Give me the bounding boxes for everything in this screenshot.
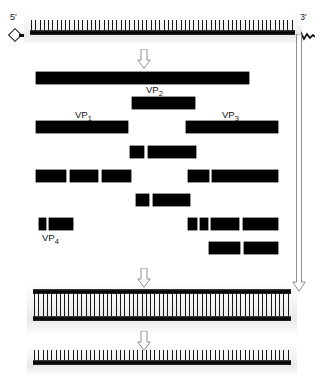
lbl-vp3-subscript: 3 — [235, 114, 239, 123]
lbl-vp4-text: VP — [42, 232, 55, 243]
vp3-label: VP3 — [222, 109, 239, 123]
lbl-vp3-text: VP — [222, 109, 235, 120]
lbl-vp2-text: VP — [146, 84, 159, 95]
lbl-vp1-subscript: 1 — [88, 114, 92, 123]
cleavage-row-4 — [0, 0, 324, 387]
replication-arrow — [137, 268, 151, 288]
lbl-vp4-subscript: 4 — [55, 237, 59, 246]
lbl-vp1-text: VP — [75, 109, 88, 120]
translation-arrow — [137, 49, 151, 69]
strand-release-arrow — [137, 331, 151, 351]
template-transfer-arrow — [292, 34, 306, 292]
lbl-vp2-subscript: 2 — [159, 89, 163, 98]
genome-processing-diagram: 5′ 3′ VP2 VP1 VP3 VP4 — [0, 0, 324, 387]
vp1-label: VP1 — [75, 109, 92, 123]
vp4-label: VP4 — [42, 232, 59, 246]
vp2-label: VP2 — [146, 84, 163, 98]
protein-bar — [244, 242, 278, 254]
protein-bar — [209, 242, 240, 254]
